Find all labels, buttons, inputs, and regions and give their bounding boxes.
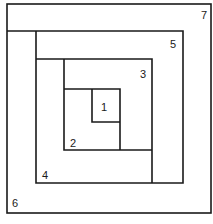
label-2: 2 bbox=[70, 137, 76, 149]
label-1: 1 bbox=[101, 101, 107, 113]
region-3-boundary bbox=[36, 59, 152, 183]
spiral-diagram: 1 2 3 4 5 6 7 bbox=[0, 0, 213, 224]
label-5: 5 bbox=[170, 38, 176, 50]
label-6: 6 bbox=[12, 197, 18, 209]
label-4: 4 bbox=[42, 169, 48, 181]
region-5-boundary bbox=[7, 31, 183, 183]
outer-boundary bbox=[7, 4, 211, 213]
region-2-boundary bbox=[64, 59, 152, 150]
label-7: 7 bbox=[201, 9, 207, 21]
label-3: 3 bbox=[140, 68, 146, 80]
